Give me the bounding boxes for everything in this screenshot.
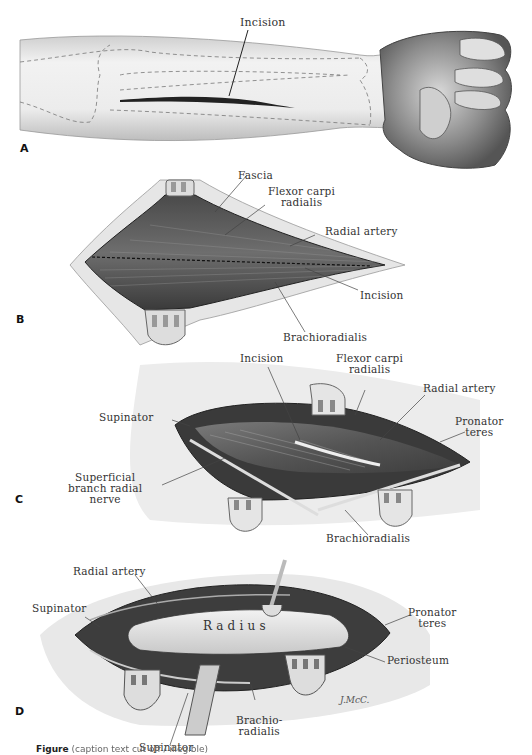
label-brachioradialis-c: Brachioradialis bbox=[326, 533, 410, 544]
label-fascia: Fascia bbox=[238, 170, 273, 181]
dissection-illustration-c bbox=[0, 350, 532, 540]
label-brachioradialis-b: Brachioradialis bbox=[283, 332, 367, 343]
panel-label-d: D bbox=[15, 705, 24, 718]
caption-rest: (caption text cut off / illegible) bbox=[72, 744, 208, 754]
label-supinator-c: Supinator bbox=[99, 412, 153, 423]
label-line: radialis bbox=[336, 364, 403, 375]
label-flexor-carpi-radialis-b: Flexor carpi radialis bbox=[268, 186, 335, 208]
leader-lines-a bbox=[0, 0, 532, 170]
panel-b: Fascia Flexor carpi radialis Radial arte… bbox=[0, 170, 532, 350]
panel-label-c: C bbox=[15, 493, 23, 506]
label-superficial-branch-radial-nerve: Superficial branch radial nerve bbox=[68, 472, 142, 505]
label-pronator-teres-d: Pronator teres bbox=[408, 607, 457, 629]
artist-signature: J.McC. bbox=[340, 695, 369, 705]
label-line: teres bbox=[408, 618, 457, 629]
label-line: radialis bbox=[236, 726, 282, 737]
panel-d: Radial artery Supinator R a d i u s Pron… bbox=[0, 555, 532, 755]
label-flexor-carpi-radialis-c: Flexor carpi radialis bbox=[336, 353, 403, 375]
label-incision-c: Incision bbox=[240, 353, 284, 364]
label-radial-artery-b: Radial artery bbox=[325, 226, 398, 237]
label-line: radialis bbox=[268, 197, 335, 208]
panel-label-a: A bbox=[20, 142, 29, 155]
label-line: nerve bbox=[68, 494, 142, 505]
panel-c: Incision Flexor carpi radialis Radial ar… bbox=[0, 350, 532, 540]
panel-label-b: B bbox=[16, 313, 24, 326]
label-radial-artery-d: Radial artery bbox=[73, 566, 146, 577]
label-supinator-d-top: Supinator bbox=[32, 603, 86, 614]
label-line: teres bbox=[455, 427, 504, 438]
label-periosteum: Periosteum bbox=[387, 655, 449, 666]
figure-caption: Figure (caption text cut off / illegible… bbox=[36, 744, 208, 754]
label-brachioradialis-d: Brachio- radialis bbox=[236, 715, 282, 737]
label-pronator-teres-c: Pronator teres bbox=[455, 416, 504, 438]
label-incision-b: Incision bbox=[360, 290, 404, 301]
panel-a: Incision A bbox=[0, 0, 532, 170]
caption-prefix: Figure bbox=[36, 744, 69, 754]
dissection-illustration-b bbox=[0, 170, 532, 350]
label-radial-artery-c: Radial artery bbox=[423, 383, 496, 394]
label-radius: R a d i u s bbox=[203, 621, 266, 632]
